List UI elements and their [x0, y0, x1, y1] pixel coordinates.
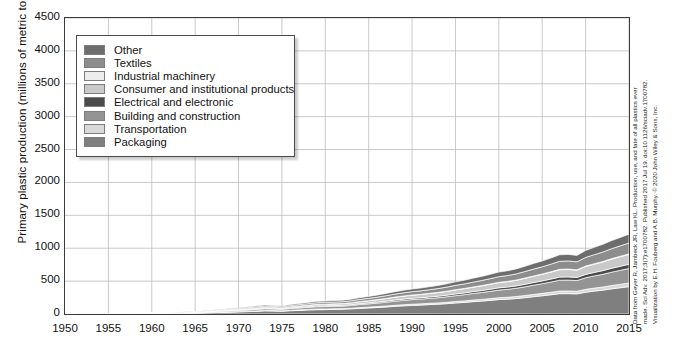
x-tick-label: 1960: [139, 322, 165, 334]
legend-swatch: [84, 124, 105, 134]
legend-item: Transportation: [84, 122, 286, 135]
citation-line-3: Visualization by E.H. Fouberg and A.B. M…: [651, 105, 658, 324]
x-tick-label: 1990: [399, 322, 425, 334]
legend-swatch: [84, 111, 105, 121]
x-axis-tick-labels: 1950195519601965197019751980198519901995…: [0, 318, 681, 340]
legend-label: Other: [114, 44, 142, 56]
y-tick-label: 1000: [26, 241, 60, 252]
legend-item: Textiles: [84, 56, 286, 69]
chart-legend: OtherTextilesIndustrial machineryConsume…: [76, 35, 295, 157]
x-tick-label: 2005: [529, 322, 555, 334]
y-tick-label: 1500: [26, 208, 60, 219]
citation-line-1: Data from Geyer R, Jambeck JR, Law KL. P…: [631, 87, 638, 324]
legend-label: Textiles: [114, 57, 152, 69]
x-tick-label: 2010: [573, 322, 599, 334]
legend-item: Building and construction: [84, 109, 286, 122]
x-tick-label: 1995: [443, 322, 469, 334]
legend-swatch: [84, 71, 105, 81]
x-tick-label: 1975: [269, 322, 295, 334]
legend-item: Industrial machinery: [84, 69, 286, 82]
x-tick-label: 1985: [356, 322, 382, 334]
legend-item: Electrical and electronic: [84, 96, 286, 109]
y-tick-label: 0: [26, 307, 60, 318]
legend-swatch: [84, 84, 105, 94]
legend-item: Consumer and institutional products: [84, 83, 286, 96]
x-tick-label: 1970: [226, 322, 252, 334]
y-tick-label: 4000: [26, 44, 60, 55]
legend-swatch: [84, 97, 105, 107]
x-tick-label: 1965: [182, 322, 208, 334]
y-tick-label: 3500: [26, 77, 60, 88]
legend-item: Other: [84, 43, 286, 56]
legend-item: Packaging: [84, 135, 286, 148]
y-tick-label: 2500: [26, 143, 60, 154]
legend-label: Industrial machinery: [114, 70, 215, 82]
legend-label: Transportation: [114, 123, 186, 135]
legend-label: Packaging: [114, 136, 167, 148]
x-tick-label: 1950: [52, 322, 78, 334]
legend-label: Building and construction: [114, 110, 240, 122]
legend-swatch: [84, 45, 105, 55]
y-tick-label: 500: [26, 274, 60, 285]
legend-label: Consumer and institutional products: [114, 83, 294, 95]
y-tick-label: 2000: [26, 175, 60, 186]
y-tick-label: 4500: [26, 11, 60, 22]
area-series-group: [65, 234, 629, 314]
legend-swatch: [84, 58, 105, 68]
y-axis-tick-labels: 450040003500300025002000150010005000: [22, 0, 60, 344]
y-tick-label: 3000: [26, 110, 60, 121]
chart-figure: Primary plastic production (millions of …: [0, 0, 681, 344]
citation-line-2: made. Sci Adv. 2017;3(7):e1700782. Publi…: [641, 80, 648, 324]
legend-swatch: [84, 137, 105, 147]
x-tick-label: 1980: [313, 322, 339, 334]
x-tick-label: 2000: [486, 322, 512, 334]
source-citation: Data from Geyer R, Jambeck JR, Law KL. P…: [632, 14, 678, 324]
x-tick-label: 1955: [96, 322, 122, 334]
legend-label: Electrical and electronic: [114, 96, 233, 108]
